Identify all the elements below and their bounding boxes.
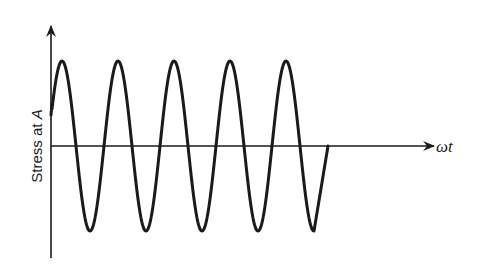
- y-axis-label: Stress at A: [28, 109, 45, 182]
- stress-time-diagram: [0, 0, 478, 268]
- x-axis-label: ωt: [436, 137, 453, 157]
